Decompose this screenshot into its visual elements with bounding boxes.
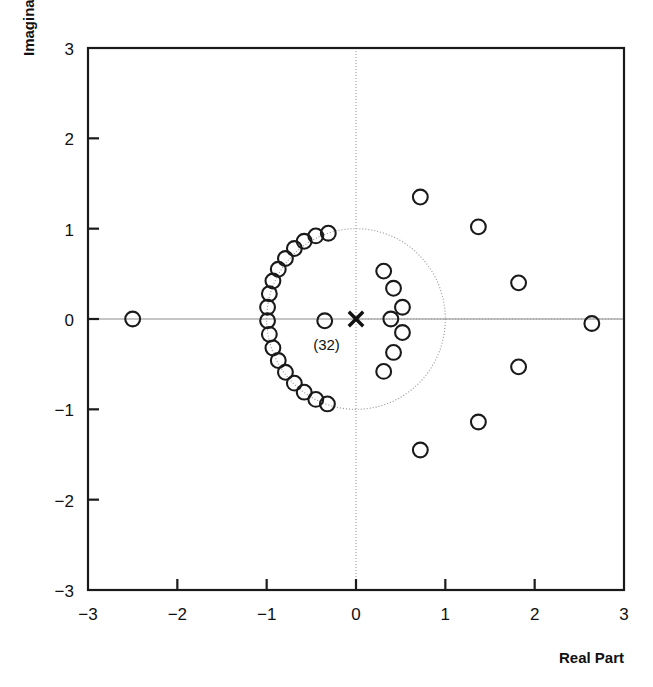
zero-marker bbox=[386, 281, 401, 296]
y-tick-label: 3 bbox=[65, 40, 74, 59]
multiplicity-annotation: (32) bbox=[313, 336, 340, 353]
zero-marker bbox=[386, 345, 401, 360]
y-tick-label: −1 bbox=[55, 401, 74, 420]
zero-marker bbox=[376, 364, 391, 379]
x-tick-label: 1 bbox=[441, 605, 450, 624]
zero-marker bbox=[511, 359, 526, 374]
x-tick-label: 2 bbox=[530, 605, 539, 624]
x-tick-label: 0 bbox=[351, 605, 360, 624]
zero-marker bbox=[287, 376, 302, 391]
x-axis-title: Real Part bbox=[559, 649, 624, 666]
zero-marker bbox=[317, 313, 332, 328]
y-tick-label: −2 bbox=[55, 492, 74, 511]
x-tick-label: −2 bbox=[168, 605, 187, 624]
chart-canvas: −3−2−10123−3−2−10123Real PartImaginary P… bbox=[0, 0, 653, 687]
zero-marker bbox=[376, 264, 391, 279]
y-tick-label: 1 bbox=[65, 221, 74, 240]
pole-zero-plot: −3−2−10123−3−2−10123Real PartImaginary P… bbox=[0, 0, 653, 687]
x-tick-label: −3 bbox=[78, 605, 97, 624]
zero-marker bbox=[413, 190, 428, 205]
zero-marker bbox=[471, 219, 486, 234]
y-tick-label: 0 bbox=[65, 311, 74, 330]
zero-marker bbox=[278, 251, 293, 266]
x-tick-label: −1 bbox=[257, 605, 276, 624]
y-axis-title: Imaginary Part bbox=[20, 0, 37, 56]
zero-marker bbox=[511, 275, 526, 290]
zero-marker bbox=[262, 327, 277, 342]
zero-marker bbox=[413, 443, 428, 458]
zero-marker bbox=[584, 316, 599, 331]
zero-marker bbox=[395, 325, 410, 340]
y-tick-label: 2 bbox=[65, 130, 74, 149]
zero-marker bbox=[395, 300, 410, 315]
x-tick-label: 3 bbox=[619, 605, 628, 624]
y-tick-label: −3 bbox=[55, 582, 74, 601]
zero-marker bbox=[471, 415, 486, 430]
